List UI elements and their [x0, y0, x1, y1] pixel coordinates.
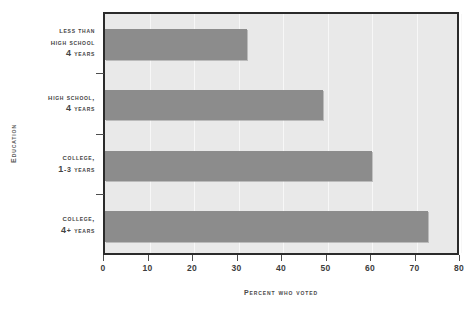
y-axis-tick — [96, 194, 104, 195]
x-axis-tick-label: 30 — [222, 263, 252, 273]
y-category-label: College,4+ years — [3, 213, 95, 236]
y-category-label: High School,4 years — [3, 92, 95, 115]
x-axis-tick-label: 20 — [177, 263, 207, 273]
x-axis-tick-label: 60 — [355, 263, 385, 273]
x-axis-tick — [459, 255, 460, 261]
x-axis-tick — [237, 255, 238, 261]
x-axis-tick-label: 50 — [311, 263, 341, 273]
y-category-label-line: College, — [3, 213, 95, 225]
y-category-label: College,1-3 years — [3, 152, 95, 175]
bar — [105, 151, 372, 181]
y-category-label: Less thanHigh School4 years — [3, 25, 95, 60]
x-axis-tick — [370, 255, 371, 261]
x-axis-tick — [148, 255, 149, 261]
x-axis-tick-label: 40 — [266, 263, 296, 273]
gridline — [461, 14, 462, 253]
bar — [105, 90, 323, 120]
y-category-label-line: College, — [3, 152, 95, 164]
y-category-label-line: 1-3 years — [3, 164, 95, 176]
plot-area — [103, 12, 459, 255]
x-axis-tick — [326, 255, 327, 261]
y-category-label-line: High School — [3, 37, 95, 49]
y-axis-tick — [96, 134, 104, 135]
x-axis-tick — [281, 255, 282, 261]
x-axis-tick — [415, 255, 416, 261]
y-category-label-line: Less than — [3, 25, 95, 37]
plot-inner — [105, 14, 457, 253]
bar-chart: Education Less thanHigh School4 yearsHig… — [0, 0, 473, 312]
y-category-label-line: High School, — [3, 92, 95, 104]
bar — [105, 211, 428, 241]
x-axis-tick — [103, 255, 104, 261]
x-axis-tick-label: 80 — [444, 263, 473, 273]
x-axis-tick-label: 70 — [400, 263, 430, 273]
y-category-label-line: 4 years — [3, 48, 95, 60]
y-category-label-line: 4+ years — [3, 225, 95, 237]
x-axis-tick — [192, 255, 193, 261]
x-axis-tick-label: 0 — [88, 263, 118, 273]
y-axis-tick — [96, 73, 104, 74]
x-axis-tick-label: 10 — [133, 263, 163, 273]
y-category-label-line: 4 years — [3, 103, 95, 115]
x-axis-title: Percent Who Voted — [103, 286, 459, 297]
bar — [105, 29, 247, 59]
